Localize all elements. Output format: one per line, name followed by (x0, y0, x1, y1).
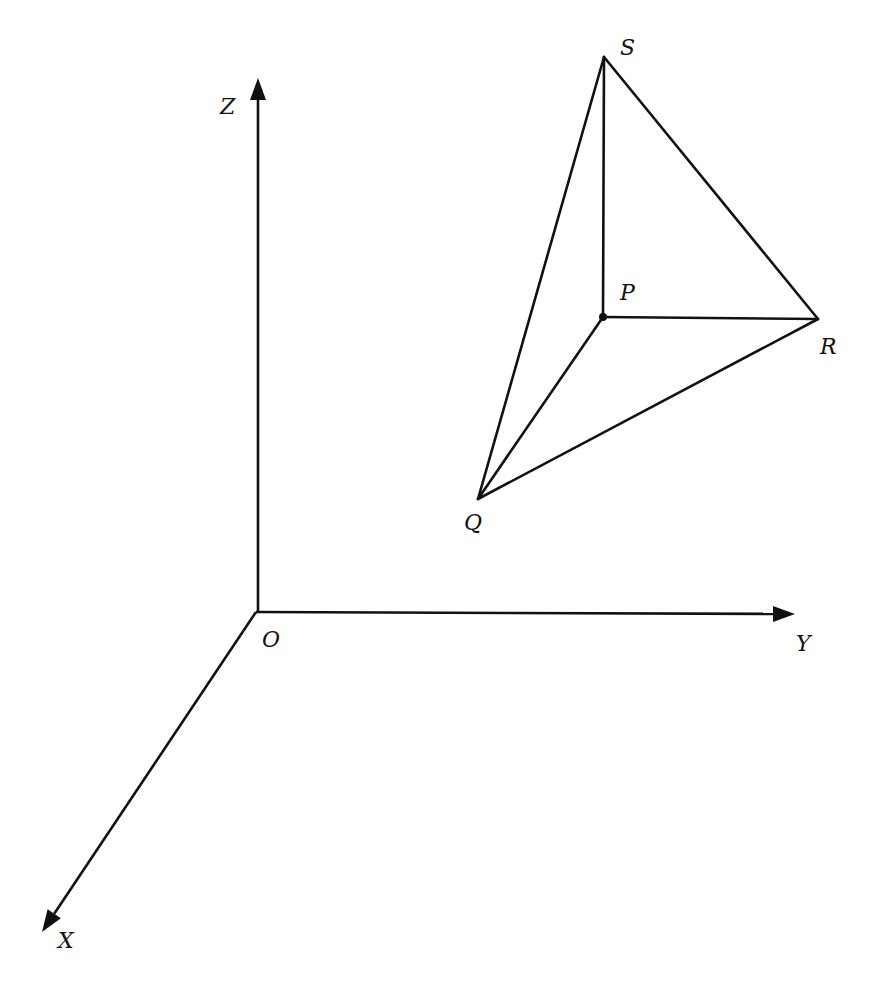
vertex-r-label: R (819, 334, 837, 359)
z-axis-label: Z (219, 94, 236, 119)
vertex-points (599, 313, 607, 321)
vertex-p-dot (599, 313, 607, 321)
vertex-q-label: Q (464, 510, 482, 535)
labels: ZYXOSPRQ (56, 35, 837, 953)
edge-QR (478, 319, 818, 499)
x-axis-line (54, 612, 256, 914)
vertex-s-label: S (620, 35, 635, 60)
y-axis-line (256, 612, 773, 614)
tetrahedron-edges (478, 57, 818, 499)
vertex-p-label: P (619, 280, 636, 305)
diagram-canvas: ZYXOSPRQ (0, 0, 877, 988)
y-axis-label: Y (796, 631, 813, 656)
x-axis-label: X (56, 928, 75, 953)
origin-label: O (262, 627, 280, 652)
axes (42, 78, 795, 932)
edge-PR (603, 317, 818, 319)
edge-SP (603, 57, 604, 317)
z-axis-arrowhead-icon (250, 78, 266, 100)
edge-PQ (478, 317, 603, 499)
edge-SR (604, 57, 818, 319)
edge-SQ (478, 57, 604, 499)
y-axis-arrowhead-icon (773, 606, 795, 622)
